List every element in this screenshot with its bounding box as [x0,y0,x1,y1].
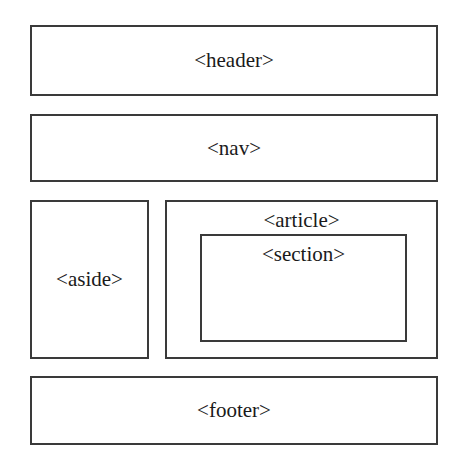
footer-box: <footer> [30,376,438,445]
header-label: <header> [194,50,274,71]
article-label: <article> [167,210,436,231]
section-label: <section> [202,244,405,265]
nav-label: <nav> [207,138,261,159]
article-box: <article> <section> [165,200,438,359]
section-box: <section> [200,234,407,342]
header-box: <header> [30,25,438,96]
footer-label: <footer> [197,400,271,421]
nav-box: <nav> [30,114,438,182]
aside-box: <aside> [30,200,149,359]
aside-label: <aside> [56,269,123,290]
